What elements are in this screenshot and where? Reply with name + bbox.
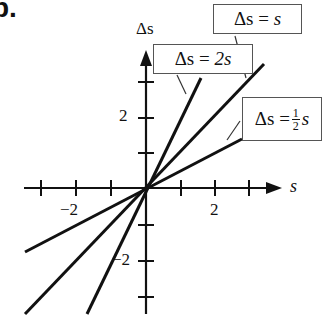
x-axis-label: s <box>290 176 297 197</box>
y-axis-arrow-icon <box>140 50 152 66</box>
frac-num: 1 <box>292 107 300 120</box>
figure: b. <box>0 0 333 332</box>
label-var: s <box>302 108 309 130</box>
label-box-slope-half: Δs = 12 s <box>242 97 322 141</box>
label-box-slope-2: Δs = 2s <box>153 44 253 74</box>
y-axis-label: Δs <box>136 19 154 39</box>
x-tick-label-neg2: −2 <box>60 200 78 220</box>
line-slope-half <box>25 139 242 252</box>
label-lhs: Δs <box>175 48 195 70</box>
label-eq: = <box>199 48 210 70</box>
y-tick-label-neg2: −2 <box>112 250 130 270</box>
label-lhs: Δs <box>234 8 254 30</box>
label-lhs: Δs <box>255 108 275 130</box>
fraction-one-half: 12 <box>292 107 300 132</box>
label-rhs: 2s <box>214 48 231 70</box>
label-rhs: s <box>274 8 281 30</box>
label-eq: = <box>279 108 290 130</box>
y-tick-label-2: 2 <box>119 106 128 126</box>
frac-den: 2 <box>293 120 299 132</box>
line-slope-2 <box>87 78 201 314</box>
x-tick-label-2: 2 <box>210 200 219 220</box>
label-box-slope-1: Δs = s <box>213 4 302 34</box>
x-axis-arrow-icon <box>266 182 282 194</box>
label-eq: = <box>258 8 269 30</box>
